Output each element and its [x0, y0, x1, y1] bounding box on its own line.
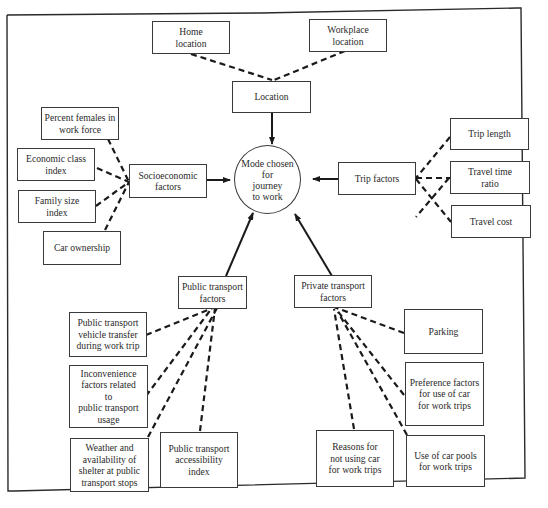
parking-node: Parking [404, 309, 483, 354]
workplace-location-node: Workplace location [309, 19, 387, 52]
travel-time-ratio-node: Travel time ratio [450, 161, 530, 194]
public-transport-factors-node: Public transport factors [178, 276, 247, 309]
family-size-index-node: Family size index [18, 190, 96, 223]
preference-factors-node: Preference factors for use of car for wo… [405, 362, 484, 426]
percent-females-node: Percent females in work force [41, 107, 119, 140]
home-location-node: Home location [152, 21, 230, 54]
travel-cost-node: Travel cost [451, 205, 531, 238]
economic-class-index-node: Economic class index [17, 148, 95, 181]
reasons-not-using-car-node: Reasons for not using car for work trips [316, 430, 394, 487]
trip-length-node: Trip length [450, 118, 529, 150]
center-node-mode-chosen: Mode chosen for journey to work [234, 145, 301, 214]
trip-factors-node: Trip factors [338, 162, 416, 195]
vehicle-transfer-node: Public transport vehicle transfer during… [69, 312, 147, 357]
weather-shelter-node: Weather and availability of shelter at p… [70, 438, 149, 492]
car-ownership-node: Car ownership [43, 231, 121, 265]
inconvenience-factors-node: Inconvenience factors related to public … [69, 365, 148, 428]
accessibility-index-node: Public transport accessibility index [160, 432, 238, 488]
location-node: Location [232, 81, 311, 113]
car-pools-node: Use of car pools for work trips [406, 435, 485, 487]
private-transport-factors-node: Private transport factors [294, 275, 372, 308]
socioeconomic-factors-node: Socioeconomic factors [129, 164, 207, 198]
